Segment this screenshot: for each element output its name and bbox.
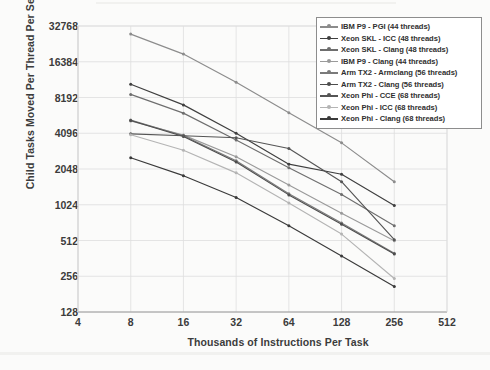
legend-line-icon — [319, 79, 339, 89]
legend-item-label: Xeon SKL - Clang (48 threads) — [341, 45, 448, 54]
legend-line-icon — [319, 68, 339, 78]
legend-item-label: Xeon SKL - ICC (48 threads) — [341, 34, 440, 43]
legend-item[interactable]: Xeon Phi - CCE (68 threads) — [319, 90, 478, 102]
series-line — [129, 118, 396, 254]
legend-item[interactable]: Xeon Phi - ICC (68 threads) — [319, 102, 478, 114]
legend-line-icon — [319, 45, 339, 55]
series-line — [129, 119, 396, 255]
series-line — [129, 156, 396, 288]
series-line — [129, 119, 396, 242]
legend-line-icon — [319, 102, 339, 112]
legend-item-label: Arm TX2 - Clang (56 threads) — [341, 80, 444, 89]
legend-line-icon — [319, 91, 339, 101]
legend-line-icon — [319, 33, 339, 43]
legend-line-icon — [319, 56, 339, 66]
legend-item-label: IBM P9 - Clang (44 threads) — [341, 57, 438, 66]
legend-item[interactable]: Xeon Phi - Clang (68 threads) — [319, 113, 478, 125]
legend-line-icon — [319, 22, 339, 32]
legend-item[interactable]: IBM P9 - Clang (44 threads) — [319, 56, 478, 68]
legend-item-label: Arm TX2 - Armclang (56 threads) — [341, 68, 457, 77]
legend-item-label: IBM P9 - PGI (44 threads) — [341, 22, 430, 31]
legend-item[interactable]: Arm TX2 - Clang (56 threads) — [319, 79, 478, 91]
legend-item[interactable]: IBM P9 - PGI (44 threads) — [319, 21, 478, 33]
legend-item-label: Xeon Phi - Clang (68 threads) — [341, 114, 445, 123]
chart-container: Child Tasks Moved Per Thread Per Second … — [0, 0, 490, 370]
legend-item[interactable]: Xeon SKL - Clang (48 threads) — [319, 44, 478, 56]
legend-item-label: Xeon Phi - CCE (68 threads) — [341, 91, 440, 100]
legend-item-label: Xeon Phi - ICC (68 threads) — [341, 103, 437, 112]
legend-item[interactable]: Arm TX2 - Armclang (56 threads) — [319, 67, 478, 79]
legend-item[interactable]: Xeon SKL - ICC (48 threads) — [319, 33, 478, 45]
series-line — [129, 133, 396, 280]
legend-line-icon — [319, 114, 339, 124]
chart-legend: IBM P9 - PGI (44 threads)Xeon SKL - ICC … — [316, 17, 482, 129]
